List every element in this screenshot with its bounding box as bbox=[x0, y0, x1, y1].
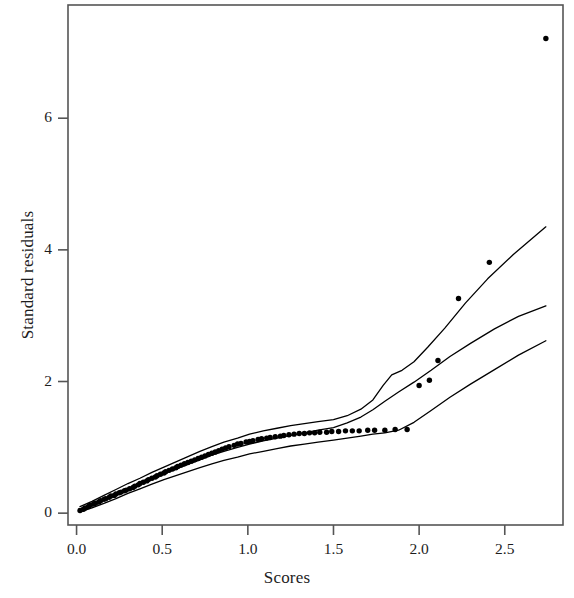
y-tick-label: 2 bbox=[18, 372, 52, 390]
x-tick-label: 2.0 bbox=[394, 540, 444, 558]
x-tick-label: 1.5 bbox=[308, 540, 358, 558]
y-tick-label: 0 bbox=[18, 503, 52, 521]
y-axis-title: Standard residuals bbox=[18, 190, 38, 360]
qq-plot-figure: Standard residuals Scores 0.00.51.01.52.… bbox=[0, 0, 574, 598]
x-tick-label: 0.0 bbox=[52, 540, 102, 558]
y-tick-label: 4 bbox=[18, 240, 52, 258]
y-tick-label: 6 bbox=[18, 108, 52, 126]
x-tick-label: 1.0 bbox=[223, 540, 273, 558]
x-axis-title: Scores bbox=[0, 568, 574, 588]
plot-canvas bbox=[0, 0, 574, 598]
x-tick-label: 2.5 bbox=[480, 540, 530, 558]
x-tick-label: 0.5 bbox=[137, 540, 187, 558]
